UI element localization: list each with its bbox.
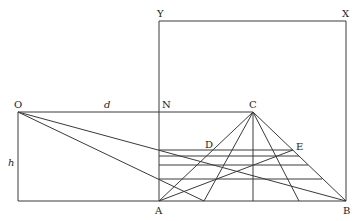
label-c: C (249, 99, 257, 110)
label-x: X (342, 8, 350, 19)
label-d: d (104, 99, 110, 110)
label-b: B (343, 205, 350, 216)
label-h: h (8, 157, 14, 168)
geometry-diagram: Y X O d N C D E h A B (0, 0, 358, 221)
label-a: A (154, 205, 163, 216)
rays-from-a (159, 150, 293, 201)
label-y: Y (156, 8, 164, 19)
label-d-point: D (205, 139, 213, 150)
label-o: O (14, 99, 22, 110)
label-n: N (162, 99, 171, 110)
label-e: E (296, 141, 303, 152)
